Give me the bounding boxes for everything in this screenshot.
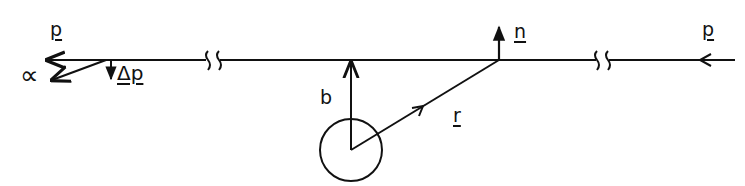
scattering-diagram: p ∝ Δp b r n p xyxy=(0,0,745,186)
label-p-outgoing: p xyxy=(50,20,62,39)
label-delta-p: Δp xyxy=(117,63,143,83)
label-r: r xyxy=(453,106,461,125)
position-vector xyxy=(351,60,499,150)
deflected-momentum-arrow xyxy=(52,60,106,80)
label-n: n xyxy=(514,22,526,41)
diagram-graphics xyxy=(0,0,745,186)
label-p-incoming: p xyxy=(702,20,714,39)
label-b: b xyxy=(320,88,332,107)
label-alpha: ∝ xyxy=(20,62,39,88)
